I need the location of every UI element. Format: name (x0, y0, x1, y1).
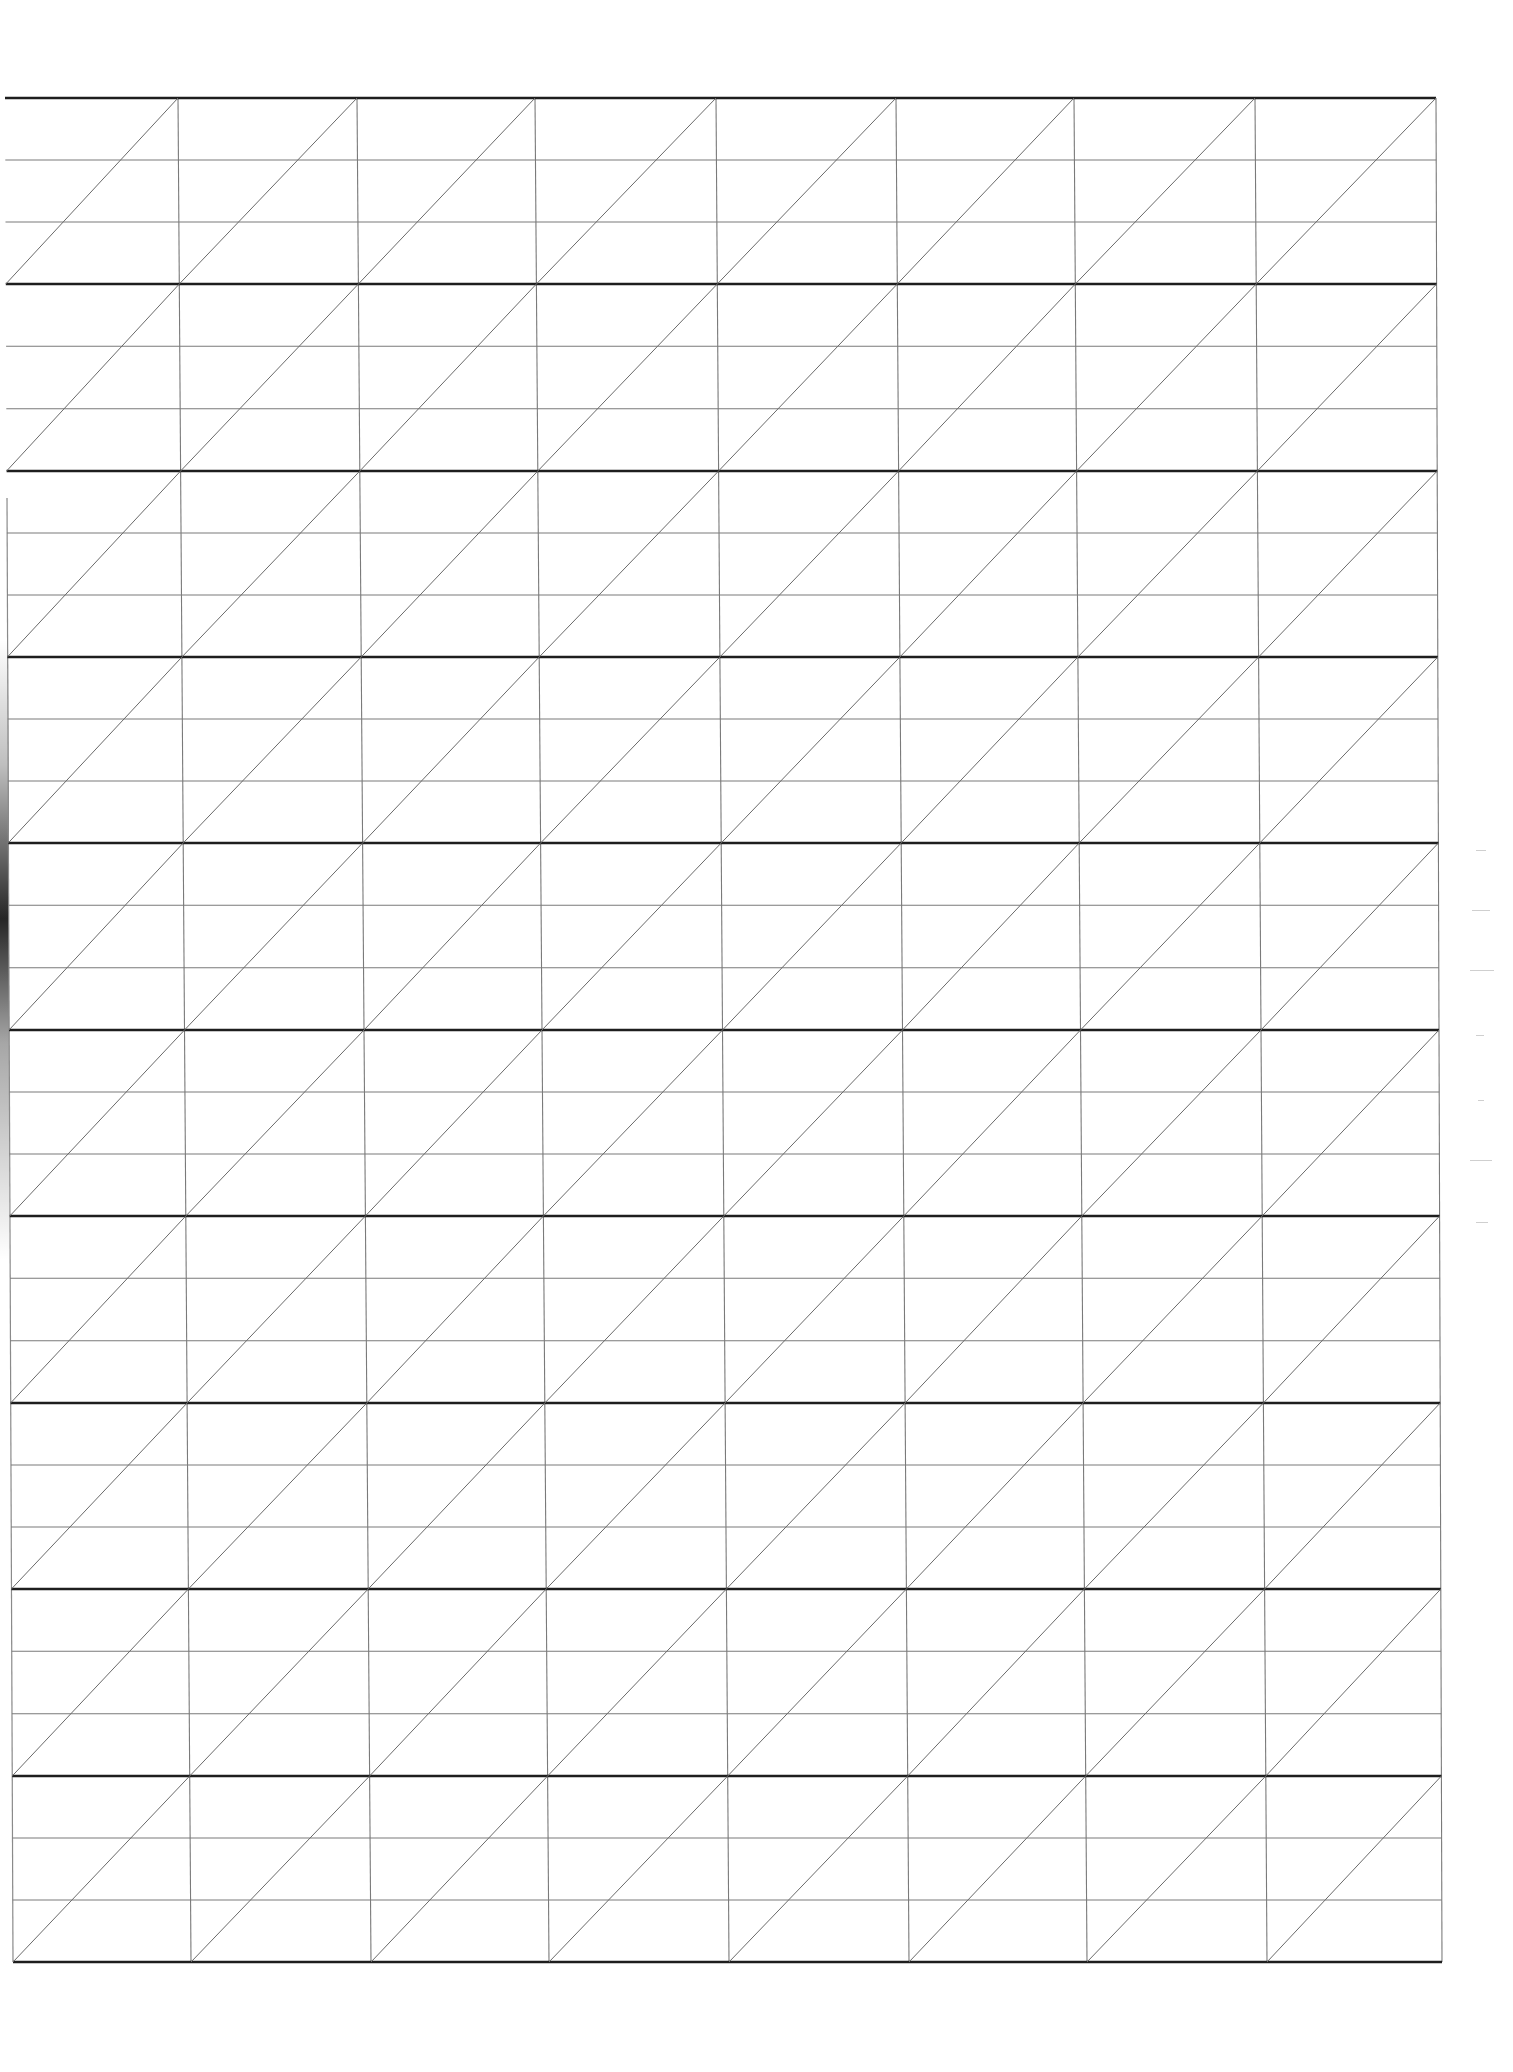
practice-sheet-page (0, 0, 1513, 2072)
slant-line (909, 1776, 1086, 1962)
slant-line (539, 471, 718, 657)
left-edge-line (7, 498, 13, 1962)
slant-line (10, 1030, 185, 1216)
slant-line (548, 1589, 727, 1776)
slant-line (1079, 657, 1258, 843)
slant-line (1082, 1030, 1261, 1216)
slant-line (11, 1403, 187, 1589)
slant-line (899, 284, 1076, 471)
slant-line (186, 1030, 364, 1216)
slant-line (908, 1589, 1085, 1776)
slant-line (904, 1030, 1081, 1216)
slant-line (906, 1403, 1083, 1589)
slant-line (545, 1216, 724, 1403)
slant-line (725, 1216, 904, 1403)
slant-line (6, 98, 178, 284)
slant-line (723, 843, 902, 1030)
slant-line (1257, 284, 1436, 471)
slant-line (183, 657, 361, 843)
slant-line (371, 1776, 548, 1962)
slant-line (1261, 843, 1438, 1030)
slant-line (12, 1589, 188, 1776)
slant-line (185, 843, 363, 1030)
slant-line (542, 843, 721, 1030)
slant-line (546, 1403, 725, 1589)
slant-line (1086, 1589, 1265, 1776)
slant-line (724, 1030, 903, 1216)
slant-line (7, 471, 180, 657)
slant-line (726, 1403, 905, 1589)
slant-line (11, 1216, 186, 1403)
slant-line (538, 284, 718, 471)
slant-line (536, 98, 716, 284)
slant-line (543, 1030, 722, 1216)
slant-line (1087, 1776, 1266, 1962)
slant-line (1078, 471, 1258, 657)
slant-line (721, 657, 900, 843)
slant-line (1077, 284, 1257, 471)
slant-line (360, 284, 537, 471)
slant-line (900, 471, 1077, 657)
slant-line (901, 657, 1078, 843)
slant-line (1262, 1030, 1439, 1216)
slant-line (905, 1216, 1082, 1403)
slant-line (361, 471, 538, 657)
slant-line (365, 1030, 542, 1216)
slant-line (1265, 1403, 1441, 1589)
slant-line (363, 657, 540, 843)
slant-line (719, 284, 898, 471)
slant-line (1263, 1216, 1439, 1403)
slant-line (720, 471, 899, 657)
slant-line (541, 657, 720, 843)
slant-line (191, 1776, 370, 1962)
slant-line (9, 843, 183, 1030)
slant-line (13, 1776, 190, 1962)
slant-line (729, 1776, 908, 1962)
slant-line (1075, 98, 1255, 284)
slant-line (7, 284, 180, 471)
slant-line (368, 1403, 545, 1589)
slant-line (188, 1403, 366, 1589)
slant-line (179, 98, 357, 284)
slant-line (1259, 471, 1438, 657)
slant-line (190, 1589, 369, 1776)
slant-line (717, 98, 896, 284)
slant-line (364, 843, 541, 1030)
slant-grid (0, 0, 1513, 2072)
slant-line (1081, 843, 1260, 1030)
grid-lines (5, 98, 1442, 1962)
slant-line (187, 1216, 365, 1403)
slant-line (903, 843, 1080, 1030)
slant-line (897, 98, 1074, 284)
slant-line (182, 471, 360, 657)
slant-line (1256, 98, 1436, 284)
slant-line (1260, 657, 1438, 843)
slant-line (8, 657, 182, 843)
slant-line (370, 1589, 547, 1776)
slant-line (549, 1776, 728, 1962)
slant-line (728, 1589, 907, 1776)
slant-line (181, 284, 359, 471)
slant-line (1266, 1589, 1441, 1776)
slant-line (358, 98, 535, 284)
slant-line (1267, 1776, 1441, 1962)
slant-line (1084, 1403, 1263, 1589)
slant-line (1083, 1216, 1262, 1403)
slant-line (367, 1216, 544, 1403)
